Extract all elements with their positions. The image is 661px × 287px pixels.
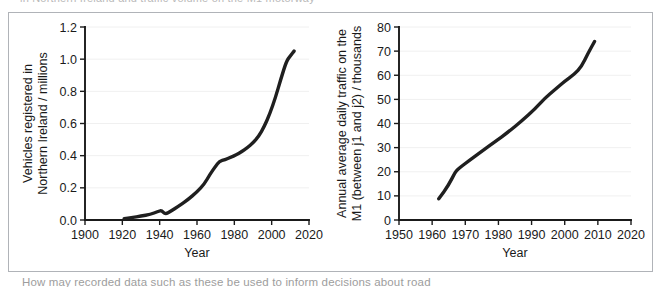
y-tick-label: 50 <box>377 93 391 107</box>
figure-page: in Northern Ireland and traffic volume o… <box>0 0 661 287</box>
y-tick-label: 1.2 <box>60 21 77 35</box>
data-series-line <box>124 51 294 219</box>
y-axis-title-line: Northern Ireland / millions <box>36 52 50 194</box>
x-tick-label: 1980 <box>485 228 513 242</box>
y-tick-label: 0.0 <box>60 214 77 228</box>
y-tick-label: 0.4 <box>60 149 77 163</box>
charts-row: 0.00.20.40.60.81.01.21900192019401960198… <box>9 13 654 271</box>
x-tick-label: 1900 <box>71 228 99 242</box>
chart-m1-daily-traffic: 0102030405060708019501960197019801990200… <box>331 13 654 271</box>
data-series-line <box>439 41 595 198</box>
y-tick-label: 30 <box>377 141 391 155</box>
y-axis-title-group: Vehicles registered inNorthern Ireland /… <box>21 52 50 194</box>
y-tick-label: 10 <box>377 189 391 203</box>
x-axis-title: Year <box>502 246 527 260</box>
y-tick-label: 0.6 <box>60 117 77 131</box>
chart-svg-vehicles: 0.00.20.40.60.81.01.21900192019401960198… <box>9 13 331 271</box>
x-tick-label: 1960 <box>183 228 211 242</box>
y-tick-label: 0 <box>384 214 391 228</box>
chart-svg-m1-traffic: 0102030405060708019501960197019801990200… <box>331 13 654 271</box>
y-tick-label: 60 <box>377 69 391 83</box>
x-axis-title: Year <box>184 246 209 260</box>
chart-vehicles-northern-ireland: 0.00.20.40.60.81.01.21900192019401960198… <box>9 13 331 271</box>
x-tick-label: 2000 <box>551 228 579 242</box>
y-tick-label: 1.0 <box>60 53 77 67</box>
x-tick-label: 1940 <box>146 228 174 242</box>
x-tick-label: 1980 <box>220 228 248 242</box>
x-tick-label: 1950 <box>385 228 413 242</box>
x-tick-label: 2020 <box>617 228 645 242</box>
x-tick-label: 2000 <box>258 228 286 242</box>
y-tick-label: 20 <box>377 165 391 179</box>
x-tick-label: 1990 <box>518 228 546 242</box>
y-tick-label: 40 <box>377 117 391 131</box>
x-tick-label: 1970 <box>451 228 479 242</box>
x-tick-label: 2020 <box>295 228 323 242</box>
x-tick-label: 1920 <box>108 228 136 242</box>
y-tick-label: 0.2 <box>60 181 77 195</box>
y-axis-title-line: Vehicles registered in <box>21 64 35 183</box>
y-axis-title-line: Annual average daily traffic on the <box>335 29 349 218</box>
y-tick-label: 70 <box>377 45 391 59</box>
y-tick-label: 80 <box>377 21 391 35</box>
y-axis-title-group: Annual average daily traffic on theM1 (b… <box>335 26 364 221</box>
figure-border-box: 0.00.20.40.60.81.01.21900192019401960198… <box>8 12 653 272</box>
x-tick-label: 2010 <box>584 228 612 242</box>
y-axis-title-line: M1 (between j1 and j2) / thousands <box>350 26 364 221</box>
y-tick-label: 0.8 <box>60 85 77 99</box>
x-tick-label: 1960 <box>418 228 446 242</box>
clipped-caption-top: in Northern Ireland and traffic volume o… <box>20 0 640 4</box>
clipped-caption-bottom: How may recorded data such as these be u… <box>22 276 642 287</box>
